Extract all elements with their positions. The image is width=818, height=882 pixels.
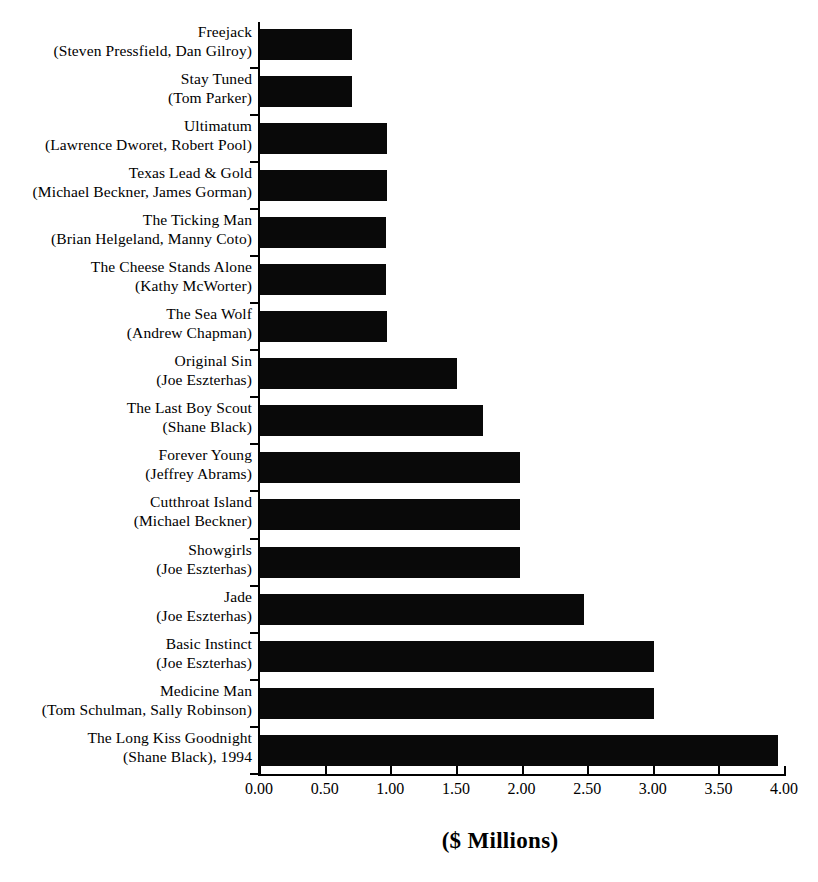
bar-row-title: Basic Instinct xyxy=(0,634,252,653)
bar-chart: Freejack(Steven Pressfield, Dan Gilroy)S… xyxy=(0,0,818,882)
bar-row-title: The Sea Wolf xyxy=(0,304,252,323)
bar xyxy=(260,499,520,530)
bar-row-credit: (Joe Eszterhas) xyxy=(0,370,252,389)
bar xyxy=(260,594,584,625)
x-axis-title: ($ Millions) xyxy=(0,828,818,854)
plot-area: Freejack(Steven Pressfield, Dan Gilroy)S… xyxy=(0,0,818,800)
bar-row-title: The Long Kiss Goodnight xyxy=(0,728,252,747)
bar-row-label: The Cheese Stands Alone(Kathy McWorter) xyxy=(0,257,252,295)
bar xyxy=(260,170,387,201)
x-axis-tick-label: 4.00 xyxy=(754,779,814,799)
x-axis-tick-label: 1.50 xyxy=(426,779,486,799)
bar-row-label: The Sea Wolf(Andrew Chapman) xyxy=(0,304,252,342)
bar-row: Freejack(Steven Pressfield, Dan Gilroy) xyxy=(0,22,818,69)
bar-row: The Cheese Stands Alone(Kathy McWorter) xyxy=(0,257,818,304)
bar-row: The Last Boy Scout(Shane Black) xyxy=(0,398,818,445)
bar-row: The Sea Wolf(Andrew Chapman) xyxy=(0,304,818,351)
bar-row-label: Stay Tuned(Tom Parker) xyxy=(0,69,252,107)
x-axis-tick xyxy=(259,766,261,776)
bar-row-title: Texas Lead & Gold xyxy=(0,163,252,182)
bar-row-credit: (Joe Eszterhas) xyxy=(0,606,252,625)
bar-row-credit: (Shane Black), 1994 xyxy=(0,747,252,766)
bar xyxy=(260,547,520,578)
bar xyxy=(260,29,352,60)
bar-row: Showgirls(Joe Eszterhas) xyxy=(0,540,818,587)
bar xyxy=(260,311,387,342)
x-axis-tick-label: 0.50 xyxy=(295,779,355,799)
bar-row-label: The Long Kiss Goodnight(Shane Black), 19… xyxy=(0,728,252,766)
x-axis-tick xyxy=(325,766,327,776)
bar-row-credit: (Andrew Chapman) xyxy=(0,323,252,342)
x-axis-tick xyxy=(653,766,655,776)
bar-row-credit: (Jeffrey Abrams) xyxy=(0,464,252,483)
x-axis-tick-label: 2.00 xyxy=(492,779,552,799)
bar-row-label: Original Sin(Joe Eszterhas) xyxy=(0,351,252,389)
x-axis-tick-label: 3.00 xyxy=(623,779,683,799)
bar-row-credit: (Lawrence Dworet, Robert Pool) xyxy=(0,135,252,154)
bar-row-label: Medicine Man(Tom Schulman, Sally Robinso… xyxy=(0,681,252,719)
bar-row-label: Showgirls(Joe Eszterhas) xyxy=(0,540,252,578)
bar xyxy=(260,76,352,107)
bar-row-credit: (Michael Beckner) xyxy=(0,511,252,530)
bar-row-label: Jade(Joe Eszterhas) xyxy=(0,587,252,625)
bar-row-title: Showgirls xyxy=(0,540,252,559)
x-axis-tick xyxy=(784,766,786,776)
bar-row-credit: (Tom Schulman, Sally Robinson) xyxy=(0,700,252,719)
bar-row: Texas Lead & Gold(Michael Beckner, James… xyxy=(0,163,818,210)
bar-row-title: Medicine Man xyxy=(0,681,252,700)
x-axis-tick-label: 1.00 xyxy=(360,779,420,799)
x-axis-tick-label: 3.50 xyxy=(688,779,748,799)
x-axis-tick-labels: 0.000.501.001.502.002.503.003.504.00 xyxy=(0,779,818,801)
bar-row-title: Original Sin xyxy=(0,351,252,370)
bar-row-title: Ultimatum xyxy=(0,116,252,135)
x-axis-tick-label: 0.00 xyxy=(229,779,289,799)
bar-row-label: Forever Young(Jeffrey Abrams) xyxy=(0,445,252,483)
bar-rows: Freejack(Steven Pressfield, Dan Gilroy)S… xyxy=(0,22,818,775)
bar-row-credit: (Michael Beckner, James Gorman) xyxy=(0,182,252,201)
bar-row: The Ticking Man(Brian Helgeland, Manny C… xyxy=(0,210,818,257)
bar-row: Cutthroat Island(Michael Beckner) xyxy=(0,492,818,539)
bar-row-credit: (Brian Helgeland, Manny Coto) xyxy=(0,229,252,248)
bar-row-label: The Ticking Man(Brian Helgeland, Manny C… xyxy=(0,210,252,248)
bar xyxy=(260,123,387,154)
bar-row-credit: (Joe Eszterhas) xyxy=(0,653,252,672)
x-axis-tick xyxy=(522,766,524,776)
bar-row-label: Freejack(Steven Pressfield, Dan Gilroy) xyxy=(0,22,252,60)
bar-row-label: Cutthroat Island(Michael Beckner) xyxy=(0,492,252,530)
bar-row-title: The Last Boy Scout xyxy=(0,398,252,417)
bar-row-label: Texas Lead & Gold(Michael Beckner, James… xyxy=(0,163,252,201)
bar-row-label: The Last Boy Scout(Shane Black) xyxy=(0,398,252,436)
bar-row-credit: (Shane Black) xyxy=(0,417,252,436)
bar-row-title: The Cheese Stands Alone xyxy=(0,257,252,276)
x-axis-tick xyxy=(587,766,589,776)
bar-row: Forever Young(Jeffrey Abrams) xyxy=(0,445,818,492)
bar-row-credit: (Joe Eszterhas) xyxy=(0,559,252,578)
bar-row-credit: (Steven Pressfield, Dan Gilroy) xyxy=(0,41,252,60)
x-axis-tick-label: 2.50 xyxy=(557,779,617,799)
bar-row: Ultimatum(Lawrence Dworet, Robert Pool) xyxy=(0,116,818,163)
bar-row-label: Ultimatum(Lawrence Dworet, Robert Pool) xyxy=(0,116,252,154)
bar-row-title: Cutthroat Island xyxy=(0,492,252,511)
bar-row-credit: (Kathy McWorter) xyxy=(0,276,252,295)
bar xyxy=(260,688,654,719)
bar xyxy=(260,358,457,389)
bar-row-label: Basic Instinct(Joe Eszterhas) xyxy=(0,634,252,672)
bar-row: Original Sin(Joe Eszterhas) xyxy=(0,351,818,398)
x-axis-tick xyxy=(718,766,720,776)
bar xyxy=(260,735,778,766)
x-axis-tick xyxy=(390,766,392,776)
bar-row-credit: (Tom Parker) xyxy=(0,88,252,107)
bar-row: Medicine Man(Tom Schulman, Sally Robinso… xyxy=(0,681,818,728)
bar xyxy=(260,405,483,436)
bar xyxy=(260,452,520,483)
bar-row-title: Stay Tuned xyxy=(0,69,252,88)
bar-row: Stay Tuned(Tom Parker) xyxy=(0,69,818,116)
bar xyxy=(260,641,654,672)
bar-row-title: Jade xyxy=(0,587,252,606)
bar-row-title: Forever Young xyxy=(0,445,252,464)
bar-row: Basic Instinct(Joe Eszterhas) xyxy=(0,634,818,681)
bar-row: Jade(Joe Eszterhas) xyxy=(0,587,818,634)
x-axis-ticks xyxy=(0,766,818,776)
bar xyxy=(260,264,386,295)
bar-row-title: The Ticking Man xyxy=(0,210,252,229)
